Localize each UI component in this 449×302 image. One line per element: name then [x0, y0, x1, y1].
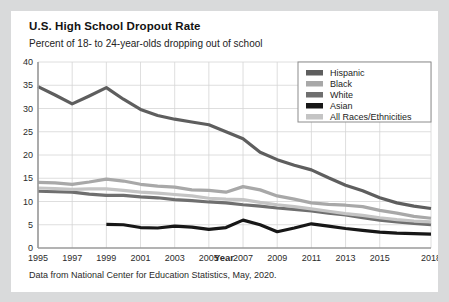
legend-label: All Races/Ethnicities	[330, 112, 412, 122]
chart-legend: HispanicBlackWhiteAsianAll Races/Ethnici…	[298, 62, 431, 122]
y-tick-label: 20	[23, 150, 33, 160]
x-tick-label: 2015	[370, 253, 390, 263]
y-tick-labels: 0510152025303540	[23, 57, 33, 253]
x-tick-label: 2007	[233, 253, 253, 263]
chart-card: U.S. High School Dropout Rate Percent of…	[11, 11, 438, 292]
legend-swatch	[306, 92, 323, 98]
y-tick-label: 5	[28, 220, 33, 230]
x-tick-label: 2009	[267, 253, 287, 263]
x-tick-label: 2011	[302, 253, 321, 263]
x-tick-label: 2013	[336, 253, 356, 263]
legend-label: White	[330, 90, 353, 100]
legend-swatch	[306, 103, 323, 109]
x-tick-label: 2001	[131, 253, 151, 263]
y-tick-label: 25	[23, 127, 33, 137]
x-tick-label: 2018	[421, 253, 438, 263]
line-chart: 0510152025303540 19951997199920012003200…	[11, 11, 438, 266]
legend-label: Asian	[330, 101, 353, 111]
y-tick-label: 15	[23, 173, 33, 183]
y-tick-label: 35	[23, 80, 33, 90]
y-tick-label: 40	[23, 57, 33, 67]
y-tick-label: 0	[28, 243, 33, 253]
legend-swatch	[306, 114, 323, 120]
legend-swatch	[306, 81, 323, 87]
y-tick-label: 10	[23, 197, 33, 207]
x-tick-label: 1997	[62, 253, 82, 263]
x-axis-title: Year	[214, 252, 234, 263]
x-tick-label: 1999	[96, 253, 116, 263]
x-tick-label: 2003	[165, 253, 185, 263]
y-tick-label: 30	[23, 104, 33, 114]
legend-label: Hispanic	[330, 68, 365, 78]
x-tick-label: 1995	[28, 253, 48, 263]
legend-swatch	[306, 70, 323, 76]
legend-label: Black	[330, 79, 353, 89]
chart-source-note: Data from National Center for Education …	[29, 270, 276, 280]
